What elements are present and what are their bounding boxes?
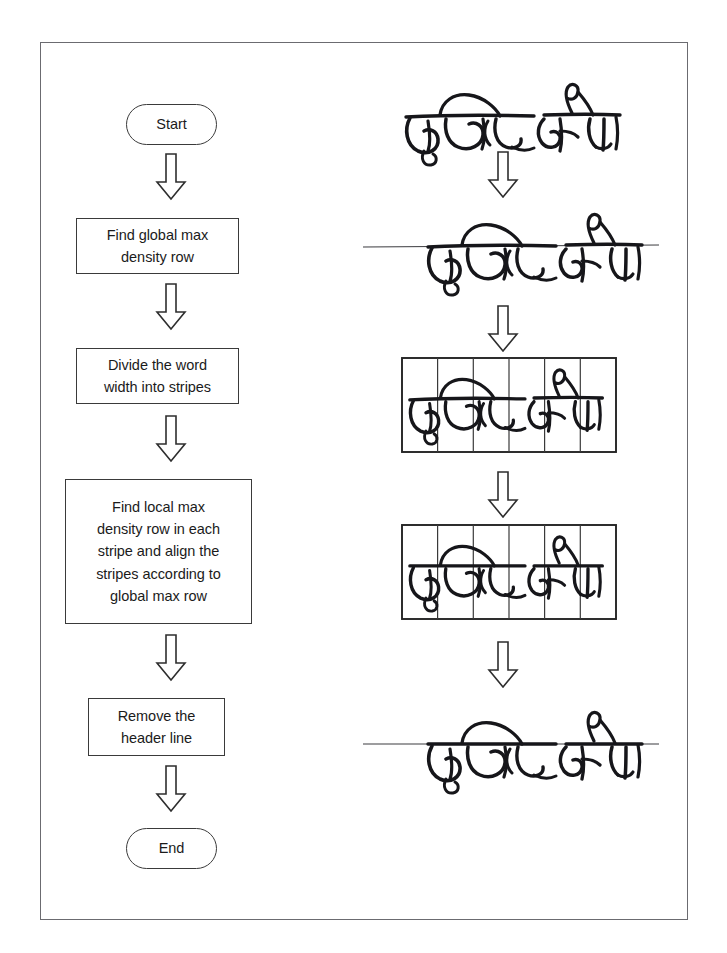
connector-step3-to-step4 (155, 634, 187, 682)
connector-stage4-to-stage5 (487, 641, 519, 689)
connector-start-to-step1 (155, 153, 187, 201)
flow-node-start: Start (126, 104, 217, 145)
connector-step4-to-end (155, 765, 187, 813)
connector-stage2-to-stage3 (487, 305, 519, 353)
flow-node-find-global-max-label: Find global max density row (107, 224, 209, 268)
flow-node-remove-header-line: Remove the header line (88, 698, 225, 756)
flow-node-start-label: Start (156, 113, 186, 135)
flow-node-find-global-max: Find global max density row (76, 218, 239, 274)
stage-global-max-row (361, 195, 661, 300)
connector-step2-to-step3 (155, 415, 187, 463)
flow-node-end: End (126, 828, 217, 869)
connector-stage3-to-stage4 (487, 471, 519, 519)
handwritten-word-ink-final (428, 713, 642, 794)
scanned-page-frame: Start Find global max density row Divide… (40, 42, 688, 920)
flow-node-find-local-max-align: Find local max density row in each strip… (65, 479, 252, 624)
handwritten-word-ink (410, 370, 603, 444)
connector-step1-to-step2 (155, 283, 187, 331)
stripe-grid (402, 525, 616, 619)
connector-stage1-to-stage2 (487, 151, 519, 199)
stage-header-line-removed (361, 693, 661, 798)
flow-node-end-label: End (159, 837, 185, 859)
flow-node-find-local-max-align-label: Find local max density row in each strip… (96, 496, 221, 606)
stage-stripes-aligned (400, 523, 620, 623)
stripe-grid (402, 358, 616, 452)
flow-node-divide-word-width-label: Divide the word width into stripes (104, 354, 211, 398)
stage-stripes-divided (400, 356, 620, 456)
handwritten-word-ink-aligned (410, 537, 603, 611)
flow-node-divide-word-width: Divide the word width into stripes (76, 348, 239, 404)
handwritten-word-ink (428, 215, 642, 296)
flow-node-remove-header-line-label: Remove the header line (118, 705, 196, 749)
